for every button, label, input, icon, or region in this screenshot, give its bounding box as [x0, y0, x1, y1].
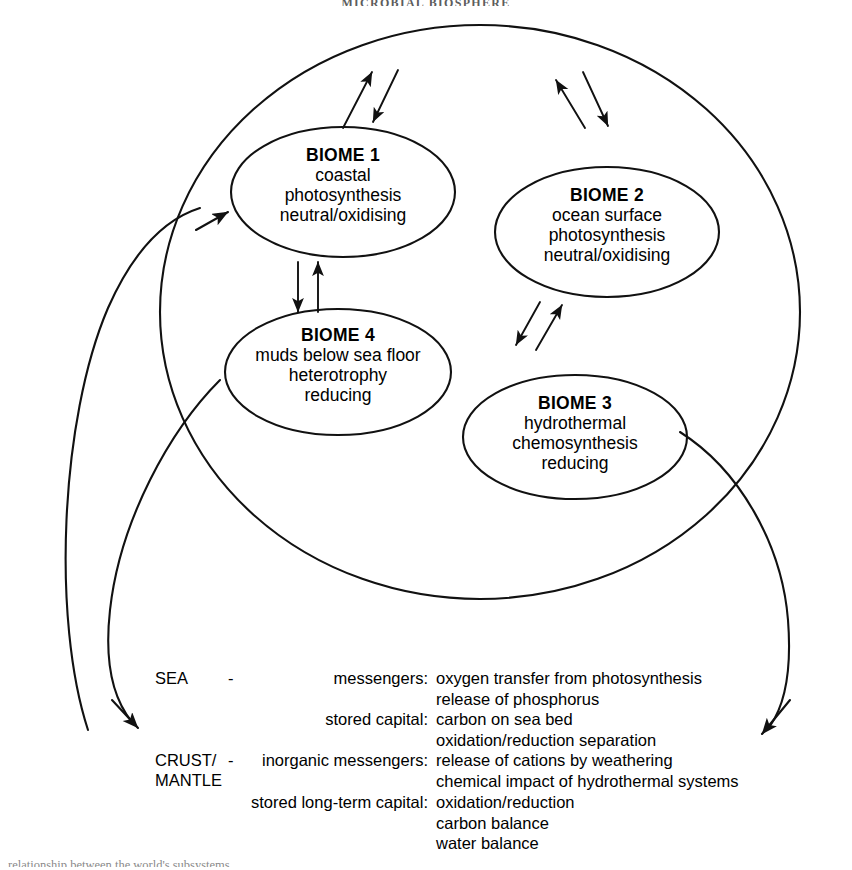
biome-2-line-1: ocean surface	[507, 206, 707, 226]
legend-items-crust-inorganic-messengers: release of cations by weathering chemica…	[436, 750, 739, 791]
biome-1-line-3: neutral/oxidising	[243, 206, 443, 226]
outer-system-boundary	[160, 25, 800, 599]
legend-item: water balance	[436, 833, 575, 854]
biome-2-label: BIOME 2 ocean surface photosynthesis neu…	[507, 186, 707, 266]
biome-3-line-3: reducing	[475, 454, 675, 474]
legend-item: oxidation/reduction	[436, 792, 575, 813]
legend-item: carbon on sea bed	[436, 709, 656, 730]
biome-2-line-3: neutral/oxidising	[507, 246, 707, 266]
legend-kind-sea-stored-capital: stored capital:	[0, 709, 428, 730]
biome-3-title: BIOME 3	[475, 394, 675, 414]
legend-items-sea-stored-capital: carbon on sea bed oxidation/reduction se…	[436, 709, 656, 750]
biome-3-line-2: chemosynthesis	[475, 434, 675, 454]
biome-4-label: BIOME 4 muds below sea floor heterotroph…	[228, 326, 448, 406]
legend-kind-sea-messengers: messengers:	[0, 668, 428, 689]
biome-4-line-1: muds below sea floor	[228, 346, 448, 366]
biome-2-line-2: photosynthesis	[507, 226, 707, 246]
legend-item: release of phosphorus	[436, 689, 702, 710]
legend-item: chemical impact of hydrothermal systems	[436, 771, 739, 792]
diagram-page: MICROBIAL BIOSPHERE	[0, 0, 852, 870]
legend-item: release of cations by weathering	[436, 750, 739, 771]
legend-item: oxidation/reduction separation	[436, 730, 656, 751]
legend-items-crust-stored-long-term-capital: oxidation/reduction carbon balance water…	[436, 792, 575, 854]
biome-2-title: BIOME 2	[507, 186, 707, 206]
biome-1-line-1: coastal	[243, 166, 443, 186]
biome-4-line-2: heterotrophy	[228, 366, 448, 386]
biome-1-title: BIOME 1	[243, 146, 443, 166]
figure-caption: relationship between the world's subsyst…	[8, 858, 230, 867]
legend-kind-crust-stored-long-term-capital: stored long-term capital:	[0, 792, 428, 813]
legend-realm-mantle: MANTLE	[155, 770, 222, 791]
biome-4-title: BIOME 4	[228, 326, 448, 346]
biome-1-label: BIOME 1 coastal photosynthesis neutral/o…	[243, 146, 443, 226]
biome-1-line-2: photosynthesis	[243, 186, 443, 206]
biome-3-label: BIOME 3 hydrothermal chemosynthesis redu…	[475, 394, 675, 474]
biome-diagram-canvas	[0, 0, 852, 870]
legend-item: carbon balance	[436, 813, 575, 834]
biome-4-line-3: reducing	[228, 386, 448, 406]
biome-3-line-1: hydrothermal	[475, 414, 675, 434]
legend-items-sea-messengers: oxygen transfer from photosynthesis rele…	[436, 668, 702, 709]
legend-item: oxygen transfer from photosynthesis	[436, 668, 702, 689]
arrowhead-biome3-to-crust	[762, 700, 790, 734]
legend-kind-crust-inorganic-messengers: inorganic messengers:	[0, 750, 428, 771]
